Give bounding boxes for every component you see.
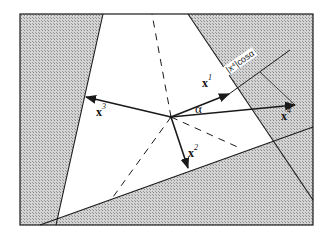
label-x2: x2 <box>188 145 198 161</box>
angle-alpha-label: α <box>195 101 202 117</box>
origin-point <box>169 115 172 118</box>
dashed-line-top <box>152 14 171 117</box>
shaded-region-left <box>20 14 103 225</box>
label-x4: x4 <box>281 108 291 124</box>
label-x3: x3 <box>96 104 106 120</box>
label-x1: x1 <box>202 75 212 91</box>
vector-x2-arrow <box>171 117 188 168</box>
dashed-line-lower-right <box>171 117 242 149</box>
